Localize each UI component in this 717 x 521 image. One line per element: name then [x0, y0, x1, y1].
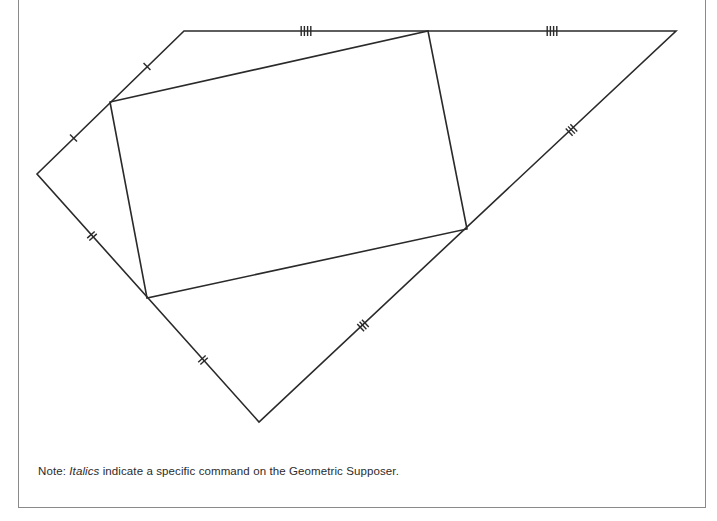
inner-polygon-path [110, 31, 467, 298]
note-italic-word: Italics [69, 465, 99, 477]
geometry-figure [0, 0, 717, 521]
note-suffix: indicate a specific command on the Geome… [99, 465, 399, 477]
caption-note: Note: Italics indicate a specific comman… [38, 465, 399, 477]
note-prefix: Note: [38, 465, 69, 477]
inner-quadrilateral [110, 31, 467, 298]
